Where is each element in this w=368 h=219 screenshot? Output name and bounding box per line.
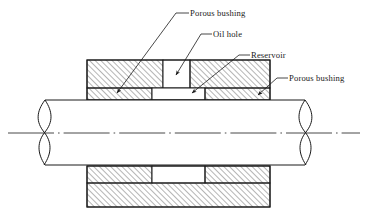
bushing-lower-housing-right xyxy=(205,166,270,183)
upper-housing xyxy=(87,60,270,100)
lower-housing-block xyxy=(87,183,270,207)
bushing-lower-right xyxy=(205,88,270,100)
reservoir-cavity xyxy=(152,88,205,100)
figure-canvas: Porous bushing Oil hole Reservoir Porous… xyxy=(0,0,368,219)
label-porous-bushing-right: Porous bushing xyxy=(289,73,345,83)
shaft xyxy=(38,100,312,165)
bushing-lower-housing-left xyxy=(87,166,152,183)
label-oil-hole: Oil hole xyxy=(213,29,242,39)
label-porous-bushing-top: Porous bushing xyxy=(190,8,246,18)
lower-housing xyxy=(87,166,270,207)
label-reservoir: Reservoir xyxy=(251,50,286,60)
reservoir-cavity-lower xyxy=(152,166,205,183)
cross-section-drawing: Porous bushing Oil hole Reservoir Porous… xyxy=(0,0,368,219)
bushing-upper-left xyxy=(87,60,163,88)
bushing-upper-right xyxy=(190,60,270,88)
